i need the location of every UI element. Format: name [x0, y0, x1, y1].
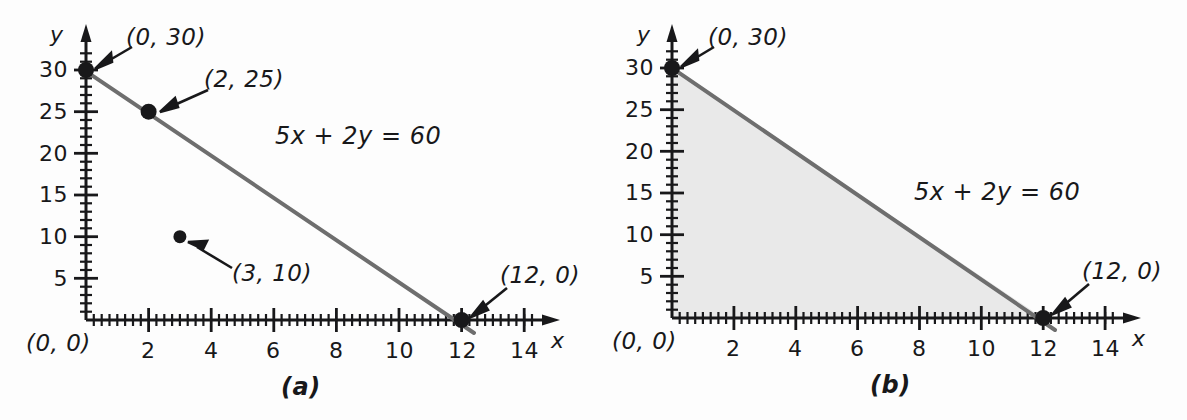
- y-tick-label-5-b: 5: [620, 266, 654, 288]
- panel-caption-a: (a): [281, 375, 321, 399]
- annotation-arrow-2-25-a: [160, 90, 208, 112]
- x-axis-label-a: x: [551, 330, 564, 352]
- y-axis-label-b: y: [637, 24, 650, 46]
- x-tick-label-10-b: 10: [967, 338, 996, 360]
- point-annotation-3-10-a: (3, 10): [232, 262, 312, 285]
- origin-label-b: (0, 0): [612, 330, 677, 353]
- point-annotation-2-25-a: (2, 25): [204, 68, 284, 91]
- point-annotation-12-0-b: (12, 0): [1082, 260, 1162, 283]
- data-point-0-30-a: [78, 62, 94, 78]
- y-axis-label-a: y: [50, 24, 63, 46]
- y-tick-label-20-a: 20: [22, 143, 68, 165]
- x-tick-label-8-a: 8: [329, 340, 344, 362]
- y-tick-label-25-b: 25: [608, 99, 654, 121]
- y-tick-label-15-a: 15: [22, 184, 68, 206]
- chart-panel-a: y x (0, 0) 5 10 15 20 25 30 2 4 6 8 10 1…: [0, 0, 594, 420]
- annotation-arrow-3-10-a: [188, 241, 232, 268]
- data-point-2-25-a: [141, 104, 157, 120]
- annotation-arrow-0-30-b: [681, 47, 714, 67]
- y-tick-label-30-b: 30: [608, 57, 654, 79]
- data-point-3-10-a: [173, 230, 186, 243]
- point-annotation-12-0-a: (12, 0): [500, 264, 580, 287]
- y-tick-label-30-a: 30: [22, 59, 68, 81]
- figure-root: y x (0, 0) 5 10 15 20 25 30 2 4 6 8 10 1…: [0, 0, 1187, 420]
- chart-panel-b: y x (0, 0) 5 10 15 20 25 30 2 4 6 8 10 1…: [594, 0, 1187, 420]
- y-tick-label-5-a: 5: [34, 268, 68, 290]
- x-tick-label-8-b: 8: [912, 338, 927, 360]
- y-tick-label-20-b: 20: [608, 141, 654, 163]
- annotation-arrow-0-30-a: [95, 47, 132, 69]
- annotation-arrow-12-0-b: [1053, 284, 1089, 314]
- x-tick-label-2-b: 2: [726, 338, 741, 360]
- equation-annotation-b: 5x + 2y = 60: [914, 180, 1080, 204]
- data-point-12-0-a: [454, 312, 470, 328]
- y-tick-label-10-b: 10: [608, 224, 654, 246]
- y-tick-label-15-b: 15: [608, 182, 654, 204]
- x-tick-label-4-a: 4: [204, 340, 219, 362]
- data-point-0-30-b: [664, 60, 680, 76]
- equation-annotation-a: 5x + 2y = 60: [275, 124, 441, 148]
- x-tick-label-10-a: 10: [385, 340, 414, 362]
- x-tick-label-4-b: 4: [788, 338, 803, 360]
- x-tick-label-6-b: 6: [850, 338, 865, 360]
- constraint-line-a: [82, 69, 474, 333]
- x-axis-label-b: x: [1132, 328, 1145, 350]
- x-tick-label-14-b: 14: [1091, 338, 1120, 360]
- x-tick-label-12-b: 12: [1029, 338, 1058, 360]
- x-tick-label-14-a: 14: [510, 340, 539, 362]
- panel-caption-b: (b): [870, 373, 911, 397]
- x-tick-label-12-a: 12: [448, 340, 477, 362]
- origin-label-a: (0, 0): [26, 332, 91, 355]
- plot-a-svg: [0, 0, 594, 420]
- annotation-arrow-12-0-a: [471, 288, 507, 317]
- y-tick-label-10-a: 10: [22, 226, 68, 248]
- y-tick-label-25-a: 25: [22, 101, 68, 123]
- x-tick-label-2-a: 2: [141, 340, 156, 362]
- x-tick-label-6-a: 6: [266, 340, 281, 362]
- point-annotation-0-30-b: (0, 30): [708, 26, 788, 49]
- point-annotation-0-30-a: (0, 30): [126, 26, 206, 49]
- data-point-12-0-b: [1035, 310, 1051, 326]
